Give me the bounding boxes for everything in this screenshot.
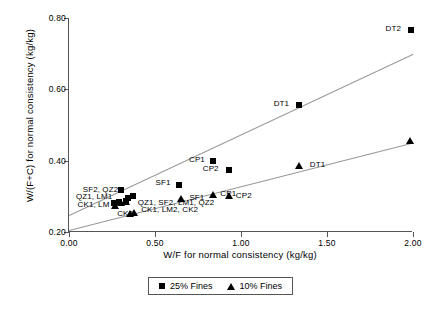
x-axis-tick-label: 1.00 xyxy=(232,238,249,248)
dt1-triangle-label: DT1 xyxy=(310,160,325,169)
y-axis-title: W/(F+C) for normal consistency (kg/kg) xyxy=(24,1,35,231)
x-axis-tick-label: 0.00 xyxy=(60,238,77,248)
cluster-square-label-3: CK1, LM xyxy=(78,200,110,209)
legend-item-10-fines: 10% Fines xyxy=(227,281,283,291)
y-axis-tick-label: 0.80 xyxy=(49,13,66,23)
x-axis-tick-label: 0.50 xyxy=(146,238,163,248)
data-point-triangle xyxy=(406,137,414,144)
cluster-triangle-label-2: CK1, LM2, CK2 xyxy=(141,205,198,214)
dt2-square-label: DT2 xyxy=(69,24,401,33)
data-point-square xyxy=(130,193,136,199)
legend-label-25-fines: 25% Fines xyxy=(170,281,213,291)
x-axis-title: W/F for normal consistency (kg/kg) xyxy=(68,249,412,260)
data-point-triangle xyxy=(122,198,130,205)
square-marker-icon xyxy=(159,283,165,289)
data-point-square xyxy=(226,167,232,173)
cp1-triangle-label: CP1 xyxy=(220,189,236,198)
dt1-square-label: DT1 xyxy=(69,99,289,108)
x-axis-tick xyxy=(155,232,156,237)
triangle-marker-icon xyxy=(227,283,235,290)
data-point-square xyxy=(176,182,182,188)
plot-area: 0.200.400.600.800.000.501.001.502.00DT2D… xyxy=(68,18,412,232)
x-axis-tick xyxy=(413,232,414,237)
x-axis-tick xyxy=(69,232,70,237)
legend-item-25-fines: 25% Fines xyxy=(159,281,213,291)
legend-label-10-fines: 10% Fines xyxy=(240,281,283,291)
x-axis-tick-label: 2.00 xyxy=(404,238,421,248)
data-point-square xyxy=(296,102,302,108)
x-axis-tick-label: 1.50 xyxy=(318,238,335,248)
ck2-triangle-label: CK2 xyxy=(117,209,133,218)
cp2-triangle-label: CP2 xyxy=(236,191,252,200)
x-axis-tick xyxy=(327,232,328,237)
cp2-square-label: CP2 xyxy=(69,164,219,173)
data-point-triangle xyxy=(295,162,303,169)
data-point-square xyxy=(408,27,414,33)
y-axis-tick-label: 0.20 xyxy=(49,227,66,237)
data-point-triangle xyxy=(209,191,217,198)
chart-legend: 25% Fines 10% Fines xyxy=(148,277,293,295)
y-axis-tick-label: 0.60 xyxy=(49,84,66,94)
y-axis-tick-label: 0.40 xyxy=(49,156,66,166)
scatter-chart: 0.200.400.600.800.000.501.001.502.00DT2D… xyxy=(0,0,441,313)
x-axis-tick xyxy=(241,232,242,237)
data-point-square xyxy=(118,187,124,193)
